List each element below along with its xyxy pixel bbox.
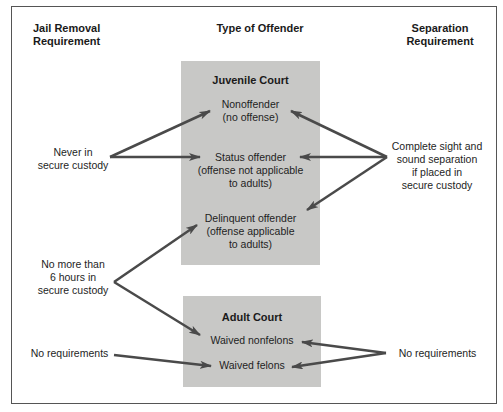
node-line: (offense applicable (181, 225, 320, 238)
node-line: to adults) (181, 238, 320, 251)
node-status-offender: Status offender (offense not applicable … (181, 151, 320, 190)
node-line: to adults) (181, 177, 320, 190)
juvenile-court-box: Juvenile Court Nonoffender (no offense) … (181, 61, 320, 265)
header-jail-removal: Jail Removal Requirement (33, 22, 100, 48)
node-line: Nonoffender (181, 98, 320, 111)
label-line: Complete sight and (382, 140, 492, 153)
header-separation: Separation Requirement (390, 22, 490, 48)
node-line: (offense not applicable (181, 164, 320, 177)
label-line: if placed in (382, 166, 492, 179)
label-line: secure custody (28, 159, 118, 172)
label-complete-sight-sound-separation: Complete sight and sound separation if p… (382, 140, 492, 192)
header-jail-removal-line1: Jail Removal (33, 22, 100, 35)
label-line: Never in (28, 146, 118, 159)
label-line: sound separation (382, 153, 492, 166)
label-no-more-than-6-hours: No more than 6 hours in secure custody (28, 258, 118, 297)
node-nonoffender: Nonoffender (no offense) (181, 98, 320, 124)
node-line: Status offender (181, 151, 320, 164)
adult-court-box: Adult Court Waived nonfelons Waived felo… (183, 296, 321, 387)
node-line: Waived felons (183, 359, 321, 372)
adult-court-title: Adult Court (183, 311, 321, 324)
label-line: No requirements (390, 347, 485, 360)
header-type-of-offender: Type of Offender (205, 22, 315, 35)
header-separation-line1: Separation (390, 22, 490, 35)
label-line: secure custody (28, 284, 118, 297)
label-line: secure custody (382, 179, 492, 192)
juvenile-court-title: Juvenile Court (181, 74, 320, 87)
node-line: Delinquent offender (181, 212, 320, 225)
node-delinquent-offender: Delinquent offender (offense applicable … (181, 212, 320, 251)
label-no-requirements-right: No requirements (390, 347, 485, 360)
header-jail-removal-line2: Requirement (33, 35, 100, 48)
label-line: 6 hours in (28, 271, 118, 284)
node-line: (no offense) (181, 111, 320, 124)
node-waived-nonfelons: Waived nonfelons (183, 334, 321, 347)
label-no-requirements-left: No requirements (22, 347, 117, 360)
label-line: No requirements (22, 347, 117, 360)
label-never-in-secure-custody: Never in secure custody (28, 146, 118, 172)
node-line: Waived nonfelons (183, 334, 321, 347)
header-separation-line2: Requirement (390, 35, 490, 48)
label-line: No more than (28, 258, 118, 271)
node-waived-felons: Waived felons (183, 359, 321, 372)
